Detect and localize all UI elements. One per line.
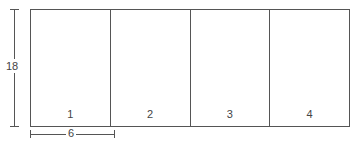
height-dimension-cap-top — [10, 9, 19, 10]
panel-label: 2 — [111, 108, 190, 120]
width-dimension-cap-right — [114, 130, 115, 138]
width-dimension-label: 6 — [66, 127, 76, 139]
panel-label: 1 — [31, 108, 110, 120]
outer-rectangle: 1 2 3 4 — [30, 9, 350, 127]
panel-label: 4 — [270, 108, 349, 120]
panel-4: 4 — [270, 10, 349, 126]
panel-2: 2 — [111, 10, 191, 126]
height-dimension-label: 18 — [6, 59, 18, 73]
panel-label: 3 — [191, 108, 270, 120]
width-dimension-cap-left — [30, 130, 31, 138]
panel-1: 1 — [31, 10, 111, 126]
height-dimension-cap-bottom — [10, 126, 19, 127]
panel-3: 3 — [191, 10, 271, 126]
